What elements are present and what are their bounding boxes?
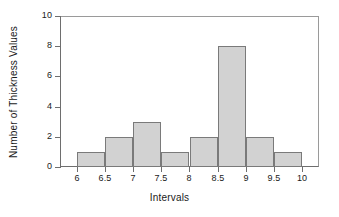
y-axis-tick: [55, 167, 61, 168]
histogram-bar: [218, 46, 246, 167]
histogram-bar: [246, 137, 274, 167]
histogram-bar: [105, 137, 133, 167]
x-axis-tick: [161, 167, 162, 172]
y-axis-tick: [55, 16, 61, 17]
y-axis-tick: [55, 76, 61, 77]
x-axis-tick: [105, 167, 106, 172]
x-axis-tick-label: 9: [243, 174, 248, 183]
x-axis-tick-label: 7: [130, 174, 135, 183]
histogram-bar: [161, 152, 189, 167]
y-axis-tick-label: 6: [47, 71, 52, 80]
y-axis-tick-label: 4: [47, 102, 52, 111]
x-axis-title: Intervals: [0, 192, 339, 203]
x-axis-tick-label: 7.5: [155, 174, 168, 183]
x-axis-tick-label: 8.5: [212, 174, 225, 183]
x-axis-tick-label: 6: [74, 174, 79, 183]
histogram-bar: [274, 152, 302, 167]
x-axis-tick-label: 10: [297, 174, 307, 183]
x-axis-tick: [189, 167, 190, 172]
y-axis-tick: [55, 107, 61, 108]
y-axis-tick-label: 0: [47, 162, 52, 171]
histogram-bar: [133, 122, 161, 167]
histogram-chart: 0246810 66.577.588.599.510 Intervals Num…: [0, 0, 339, 217]
x-axis-tick-label: 9.5: [268, 174, 281, 183]
y-axis-tick-label: 10: [42, 11, 52, 20]
x-axis-tick: [246, 167, 247, 172]
bars-layer: [60, 16, 319, 167]
x-axis-tick: [302, 167, 303, 172]
x-axis-tick: [77, 167, 78, 172]
y-axis-tick: [55, 137, 61, 138]
x-axis-tick: [133, 167, 134, 172]
x-axis-tick: [274, 167, 275, 172]
histogram-bar: [190, 137, 218, 167]
y-axis-title-wrap: Number of Thickness Values: [6, 16, 20, 167]
x-axis-tick: [218, 167, 219, 172]
y-axis-title: Number of Thickness Values: [8, 25, 19, 157]
histogram-bar: [77, 152, 105, 167]
x-axis-tick-label: 8: [186, 174, 191, 183]
x-axis-tick-label: 6.5: [99, 174, 112, 183]
y-axis-tick: [55, 46, 61, 47]
y-axis-tick-label: 8: [47, 41, 52, 50]
y-axis-tick-label: 2: [47, 132, 52, 141]
